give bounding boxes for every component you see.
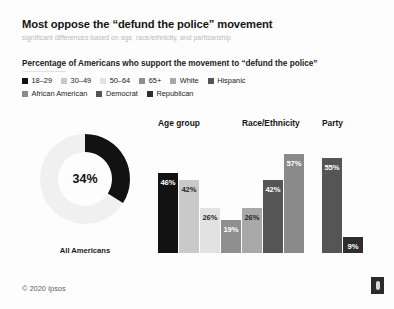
bar-group-party: 55%9% [322, 141, 364, 253]
infographic-canvas: Most oppose the “defund the police” move… [0, 0, 394, 309]
bar-group-title: Race/Ethnicity [242, 118, 300, 128]
bar[interactable]: 26% [200, 208, 220, 253]
bar-value-label: 57% [284, 160, 304, 168]
bar[interactable]: 55% [322, 158, 342, 253]
bar-group-age-group: 46%42%26%19% [158, 141, 242, 253]
footer-copyright: © 2020 Ipsos [22, 284, 66, 293]
bar-groups-area: Age group46%42%26%19%Race/Ethnicity26%42… [0, 0, 394, 309]
bar-value-label: 55% [322, 164, 342, 172]
bar-group-race-ethnicity: 26%42%57% [242, 141, 305, 253]
bar-value-label: 46% [158, 179, 178, 187]
bar[interactable]: 42% [179, 180, 199, 253]
bar-value-label: 26% [242, 214, 262, 222]
bar-value-label: 26% [200, 214, 220, 222]
bar-value-label: 42% [179, 186, 199, 194]
ipsos-logo-mark [376, 281, 380, 290]
bar-group-title: Age group [158, 118, 200, 128]
bar[interactable]: 19% [221, 220, 241, 253]
bar-value-label: 9% [343, 243, 363, 251]
ipsos-logo [371, 277, 384, 294]
bar[interactable]: 26% [242, 208, 262, 253]
bar[interactable]: 9% [343, 237, 363, 253]
bar[interactable]: 57% [284, 154, 304, 253]
bar[interactable]: 42% [263, 180, 283, 253]
bar-group-title: Party [322, 118, 343, 128]
bar-value-label: 19% [221, 226, 241, 234]
bar-value-label: 42% [263, 186, 283, 194]
bar[interactable]: 46% [158, 173, 178, 253]
